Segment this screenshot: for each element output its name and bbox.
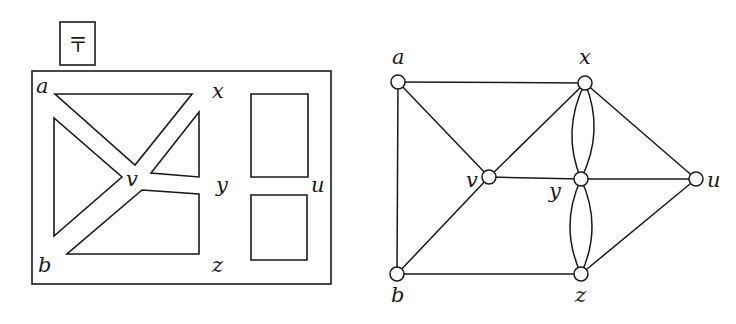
node-label-x: x (579, 45, 591, 69)
map-label-u: u (311, 173, 325, 197)
node-v (482, 170, 496, 184)
edge-x-y-1 (572, 83, 585, 179)
map-label-z: z (211, 253, 224, 277)
figure-canvas: 〒axvyubz axvyubz (0, 0, 736, 324)
edge-a-x (398, 82, 585, 83)
map-label-y: y (215, 173, 229, 197)
map-panel: 〒axvyubz (32, 22, 331, 284)
region-upper-right-triangle (151, 112, 199, 177)
edge-y-z-2 (581, 179, 592, 274)
region-upper-rect (251, 94, 308, 177)
edge-v-x (489, 83, 585, 177)
node-label-v: v (466, 168, 478, 192)
graph-panel: axvyubz (390, 45, 721, 307)
postal-mark-icon: 〒 (68, 33, 88, 57)
node-x (578, 76, 592, 90)
region-top-triangle (55, 94, 192, 165)
node-label-z: z (574, 283, 587, 307)
node-label-y: y (548, 179, 562, 203)
node-label-u: u (707, 168, 721, 192)
edge-y-z-1 (570, 179, 581, 274)
edge-z-u (581, 179, 696, 274)
map-label-v: v (126, 167, 138, 191)
node-b (390, 267, 404, 281)
edge-x-y-2 (581, 83, 594, 179)
edge-a-b (397, 82, 398, 274)
edge-x-u (585, 83, 696, 179)
edge-a-v (398, 82, 489, 177)
map-label-b: b (38, 253, 51, 277)
node-y (574, 172, 588, 186)
node-a (391, 75, 405, 89)
node-label-a: a (392, 45, 405, 69)
map-label-a: a (36, 74, 49, 98)
edges (397, 82, 696, 274)
node-z (574, 267, 588, 281)
region-left-triangle (54, 118, 122, 236)
region-lower-rect (251, 195, 307, 260)
node-label-b: b (391, 283, 404, 307)
map-label-x: x (212, 79, 224, 103)
region-bottom-quad (67, 190, 199, 254)
node-u (689, 172, 703, 186)
edge-v-y (489, 177, 581, 179)
